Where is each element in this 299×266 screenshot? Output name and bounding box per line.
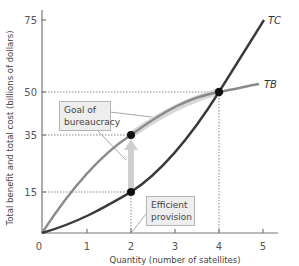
tc-label: TC xyxy=(268,15,281,26)
x-tick-1: 1 xyxy=(84,241,90,252)
x-tick-4: 4 xyxy=(216,241,222,252)
efficient-callout-line2: provision xyxy=(151,211,190,223)
point-efficient xyxy=(127,188,135,196)
x-tick-2: 2 xyxy=(128,241,134,252)
point-intersection xyxy=(215,88,223,96)
chart-canvas: 0 1 2 3 4 5 75 50 35 15 TC TB Quantity (… xyxy=(0,0,299,266)
goal-callout-line1: Goal of xyxy=(64,104,106,116)
goal-callout-line2: bureaucracy xyxy=(64,116,106,128)
efficient-callout-line1: Efficient xyxy=(151,199,190,211)
y-tick-50: 50 xyxy=(24,87,37,98)
y-axis-label: Total benefit and total cost (billions o… xyxy=(5,31,15,227)
tb-label: TB xyxy=(264,79,277,90)
x-tick-5: 5 xyxy=(260,241,266,252)
x-tick-0: 0 xyxy=(36,241,42,252)
goal-of-bureaucracy-callout: Goal of bureaucracy xyxy=(59,101,111,131)
point-goal xyxy=(127,131,135,139)
efficient-provision-callout: Efficient provision xyxy=(146,196,195,226)
y-tick-15: 15 xyxy=(24,187,37,198)
y-tick-35: 35 xyxy=(24,130,37,141)
y-tick-75: 75 xyxy=(24,15,37,26)
x-axis-label: Quantity (number of satellites) xyxy=(109,255,240,265)
up-arrow xyxy=(124,139,138,188)
x-tick-3: 3 xyxy=(172,241,178,252)
